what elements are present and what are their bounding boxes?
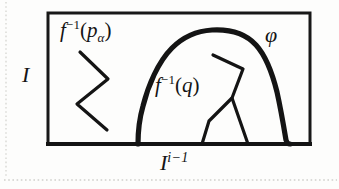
label-f-inverse-q-superscript: −1 [161, 72, 175, 87]
zigzag-f-inverse-q-branch [232, 98, 248, 144]
zigzag-f-inverse-p-alpha [77, 52, 108, 130]
label-f-inverse-p-alpha-argument: p [87, 18, 98, 42]
zigzag-f-inverse-q [202, 55, 243, 144]
label-f-inverse-q-paren-close: ) [193, 73, 200, 97]
label-phi: φ [265, 24, 277, 46]
label-cube-I: Ii−1 [160, 152, 188, 174]
label-f-inverse-p-alpha: f−1(pα) [60, 20, 111, 41]
label-interval-I: I [22, 64, 29, 86]
label-f-inverse-q: f−1(q) [155, 75, 200, 96]
figure-container: f−1(pα) f−1(q) φ I Ii−1 [0, 0, 339, 189]
label-cube-I-superscript: i−1 [167, 149, 188, 165]
label-f-inverse-q-argument: q [182, 73, 193, 97]
label-f-inverse-p-alpha-paren-close: ) [104, 18, 111, 42]
label-f-inverse-p-alpha-superscript: −1 [66, 17, 80, 32]
